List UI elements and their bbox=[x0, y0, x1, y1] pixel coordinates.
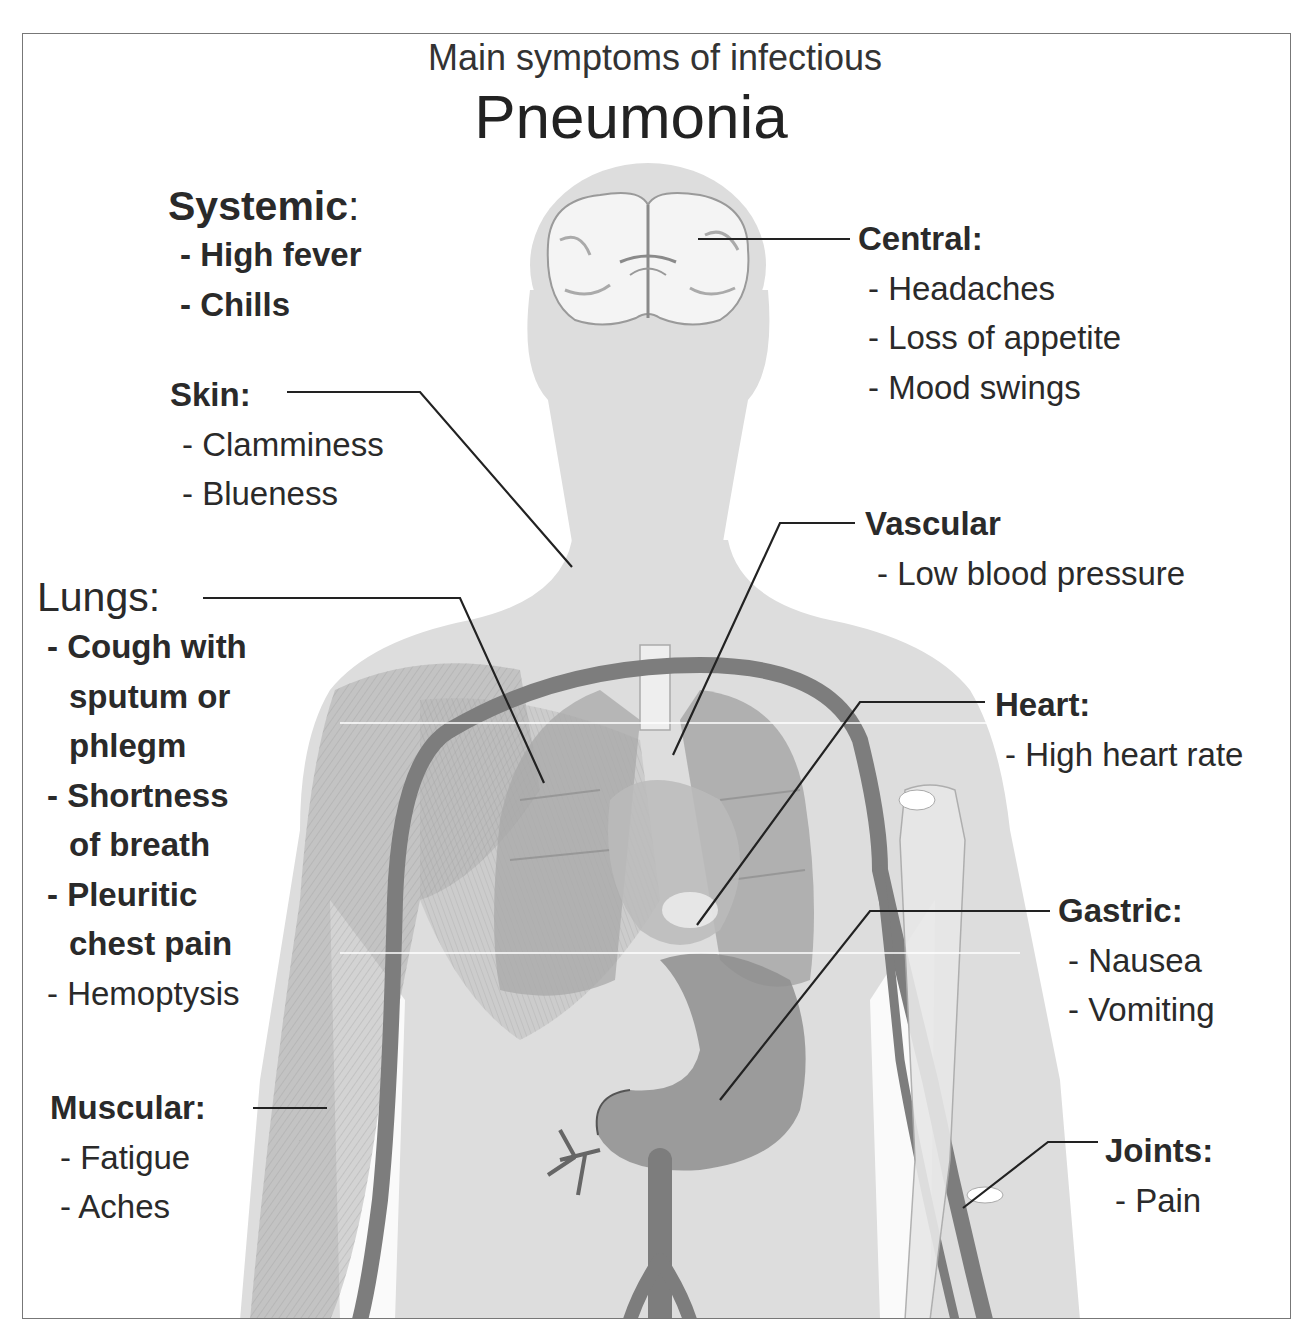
systemic-group: Systemic: - High fever - Chills bbox=[168, 182, 362, 329]
systemic-heading: Systemic bbox=[168, 183, 348, 229]
heart-item: - High heart rate bbox=[1005, 730, 1243, 780]
gastric-item: - Nausea bbox=[1068, 936, 1215, 986]
lungs-item: chest pain bbox=[69, 919, 247, 969]
skin-heading: Skin: bbox=[170, 370, 384, 420]
subtitle: Main symptoms of infectious bbox=[0, 40, 1310, 76]
systemic-colon: : bbox=[348, 183, 359, 229]
central-item: - Mood swings bbox=[868, 363, 1121, 413]
heart-group: Heart: - High heart rate bbox=[995, 680, 1243, 779]
gastric-group: Gastric: - Nausea - Vomiting bbox=[1058, 886, 1215, 1035]
joints-group: Joints: - Pain bbox=[1105, 1126, 1213, 1225]
gastric-item: - Vomiting bbox=[1068, 985, 1215, 1035]
lungs-item: of breath bbox=[69, 820, 247, 870]
lungs-item: - Shortness bbox=[47, 771, 247, 821]
lungs-item: - Cough with bbox=[47, 622, 247, 672]
central-heading: Central: bbox=[858, 214, 1121, 264]
central-item: - Loss of appetite bbox=[868, 313, 1121, 363]
skin-item: - Clamminess bbox=[182, 420, 384, 470]
page-title: Pneumonia bbox=[0, 86, 1262, 148]
heart-heading: Heart: bbox=[995, 680, 1243, 730]
muscular-item: - Fatigue bbox=[60, 1133, 206, 1183]
joints-heading: Joints: bbox=[1105, 1126, 1213, 1176]
lungs-item: - Pleuritic bbox=[47, 870, 247, 920]
lungs-item: sputum or bbox=[69, 672, 247, 722]
brain-illustration bbox=[548, 193, 749, 325]
lungs-item: - Hemoptysis bbox=[47, 969, 247, 1019]
lungs-colon: : bbox=[149, 574, 160, 620]
gastric-heading: Gastric: bbox=[1058, 886, 1215, 936]
central-group: Central: - Headaches - Loss of appetite … bbox=[858, 214, 1121, 412]
vascular-item: - Low blood pressure bbox=[877, 549, 1185, 599]
muscular-item: - Aches bbox=[60, 1182, 206, 1232]
central-item: - Headaches bbox=[868, 264, 1121, 314]
vascular-group: Vascular - Low blood pressure bbox=[865, 499, 1185, 598]
skin-item: - Blueness bbox=[182, 469, 384, 519]
systemic-item: - High fever bbox=[180, 230, 362, 280]
joints-item: - Pain bbox=[1115, 1176, 1213, 1226]
muscular-group: Muscular: - Fatigue - Aches bbox=[50, 1083, 206, 1232]
systemic-item: - Chills bbox=[180, 280, 362, 330]
lungs-group: Lungs: - Cough with sputum or phlegm - S… bbox=[37, 572, 247, 1018]
vascular-heading: Vascular bbox=[865, 499, 1185, 549]
lungs-item: phlegm bbox=[69, 721, 247, 771]
muscular-heading: Muscular: bbox=[50, 1083, 206, 1133]
skin-group: Skin: - Clamminess - Blueness bbox=[170, 370, 384, 519]
lungs-heading: Lungs bbox=[37, 574, 149, 620]
